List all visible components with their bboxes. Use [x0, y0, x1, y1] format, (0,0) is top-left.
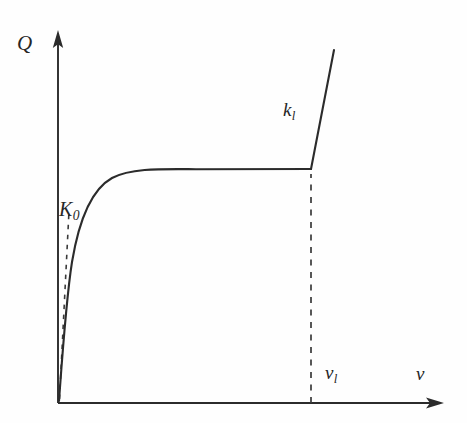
figure-root: Q v K0 kl vl [0, 0, 467, 423]
breakpoint-label: vl [325, 363, 337, 386]
kl-rising-branch-line [311, 50, 334, 169]
x-axis-group [58, 398, 444, 409]
initial-slope-symbol: K [59, 198, 72, 220]
final-slope-label: kl [283, 100, 295, 123]
y-axis-label: Q [17, 33, 32, 54]
x-axis-label: v [416, 364, 424, 383]
final-slope-subscript: l [291, 108, 295, 123]
q-curve-saturating [59, 169, 311, 401]
breakpoint-subscript: l [333, 371, 337, 386]
initial-slope-label: K0 [59, 199, 79, 223]
initial-slope-subscript: 0 [72, 208, 79, 223]
